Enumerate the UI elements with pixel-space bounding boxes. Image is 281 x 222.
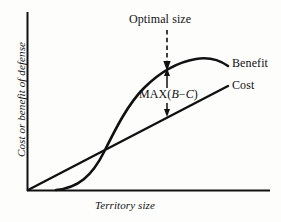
benefit-curve-label: Benefit (232, 57, 268, 69)
cost-curve (28, 86, 228, 190)
max-variable-c: C (186, 87, 194, 101)
benefit-curve (56, 58, 228, 190)
figure-container: Cost or benefit of defense Territory siz… (0, 0, 281, 222)
cost-curve-label: Cost (232, 79, 254, 91)
chart-canvas (0, 0, 281, 222)
max-minus-sign: − (179, 87, 186, 101)
max-prefix: MAX( (139, 87, 171, 101)
max-benefit-minus-cost-annotation: MAX(B−C) (139, 88, 198, 100)
max-suffix: ) (194, 87, 198, 101)
y-axis-label: Cost or benefit of defense (16, 30, 27, 170)
x-axis-label: Territory size (95, 200, 155, 211)
optimal-size-annotation: Optimal size (129, 13, 191, 25)
max-variable-b: B (171, 87, 178, 101)
